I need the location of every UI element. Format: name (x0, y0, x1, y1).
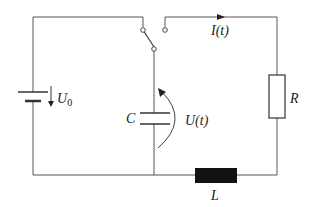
current-label: I(t) (210, 23, 229, 39)
circuit-diagram: U0 I(t) C U(t) R L (0, 0, 311, 207)
capacitor-icon (140, 113, 170, 124)
switch (141, 28, 168, 52)
voltage-label: U(t) (185, 113, 209, 129)
source-label: U0 (57, 91, 72, 108)
inductor-icon (195, 168, 237, 183)
wire-left (33, 17, 143, 92)
inductor-label: L (210, 188, 219, 203)
current-arrow-icon (217, 14, 225, 20)
resistor-icon (269, 75, 285, 118)
capacitor-label: C (126, 111, 136, 126)
resistor-label: R (289, 91, 299, 106)
source-voltage-arrow (48, 86, 54, 107)
voltage-arc-icon (158, 92, 175, 148)
battery-icon (18, 92, 48, 101)
